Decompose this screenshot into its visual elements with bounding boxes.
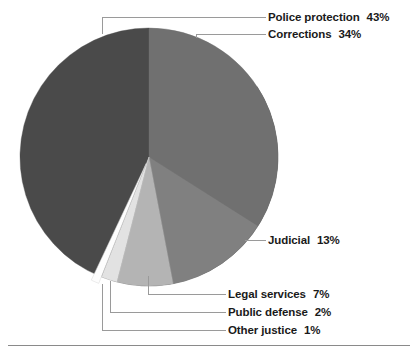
pie-chart-figure: Police protection43% Corrections34% Judi… xyxy=(0,0,418,356)
pie-label-public-defense-value: 2% xyxy=(315,306,331,318)
pie-label-judicial-value: 13% xyxy=(317,234,340,246)
bottom-divider-rule xyxy=(8,345,410,346)
pie-label-other-justice-name: Other justice xyxy=(228,324,297,336)
pie-label-other-justice: Other justice1% xyxy=(228,324,320,337)
pie-label-legal-services-value: 7% xyxy=(313,288,329,300)
pie-label-judicial: Judicial13% xyxy=(268,234,340,247)
pie-label-corrections-name: Corrections xyxy=(268,28,331,40)
pie-label-legal-services: Legal services7% xyxy=(228,288,329,301)
pie-label-corrections-value: 34% xyxy=(338,28,361,40)
leader-line-corrections xyxy=(196,34,266,38)
pie-label-public-defense-name: Public defense xyxy=(228,306,308,318)
leader-line-other-justice xyxy=(102,284,226,330)
pie-label-legal-services-name: Legal services xyxy=(228,288,306,300)
pie-label-corrections: Corrections34% xyxy=(268,28,361,41)
pie-label-other-justice-value: 1% xyxy=(304,324,320,336)
pie-label-police-protection-value: 43% xyxy=(367,11,390,23)
leader-line-public-defense xyxy=(110,281,226,312)
pie-slices xyxy=(20,28,278,286)
pie-chart-canvas xyxy=(0,0,418,356)
pie-label-police-protection-name: Police protection xyxy=(268,11,360,23)
pie-label-judicial-name: Judicial xyxy=(268,234,310,246)
pie-label-police-protection: Police protection43% xyxy=(268,11,389,24)
pie-label-public-defense: Public defense2% xyxy=(228,306,331,319)
